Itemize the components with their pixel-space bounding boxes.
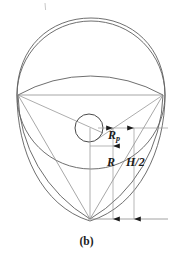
construction-line-right xyxy=(96,95,163,140)
figure-container: Rp R H/2 (b) xyxy=(0,0,173,259)
label-rotor-radius: R xyxy=(107,156,115,168)
label-pin-radius: Rp xyxy=(108,129,120,143)
top-tick-mark xyxy=(45,3,46,10)
reuleaux-rotor-diagram xyxy=(0,0,173,259)
housing-envelope-outline xyxy=(17,18,165,221)
figure-caption: (b) xyxy=(0,236,173,248)
label-pin-radius-subscript: p xyxy=(116,134,120,143)
label-pin-radius-base: R xyxy=(108,128,116,142)
reuleaux-rotor-outline xyxy=(18,76,163,219)
label-half-height: H/2 xyxy=(126,156,145,168)
